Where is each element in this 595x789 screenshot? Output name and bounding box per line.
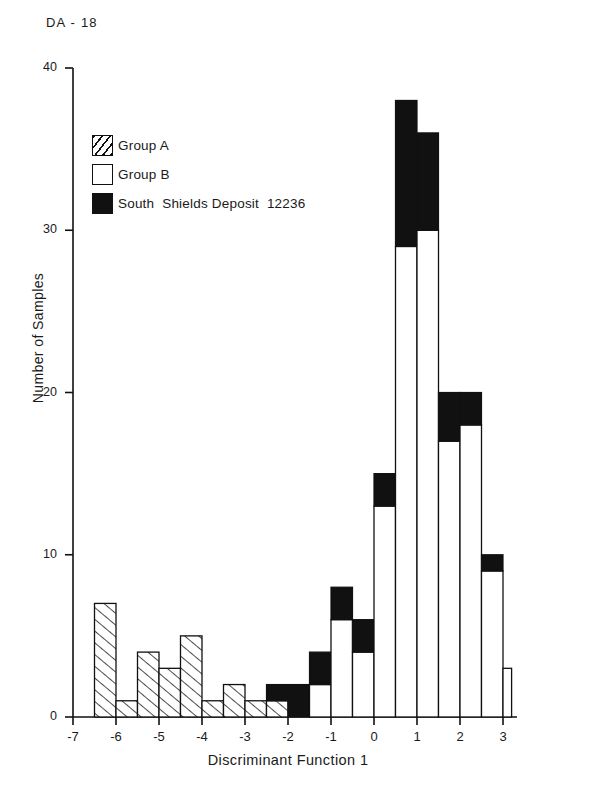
- bar-segment: [439, 441, 461, 717]
- bar-segment: [353, 620, 375, 652]
- x-tick-label: -5: [144, 729, 174, 744]
- x-tick-label: -2: [273, 729, 303, 744]
- bar-segment: [396, 100, 418, 246]
- bar-segment: [331, 587, 353, 619]
- chart-bars: [95, 100, 512, 717]
- bar-segment: [374, 474, 396, 506]
- x-tick-label: -6: [101, 729, 131, 744]
- bar-segment: [310, 685, 332, 717]
- bar-segment: [310, 652, 332, 684]
- x-tick-label: -7: [58, 729, 88, 744]
- bar-segment: [503, 668, 512, 717]
- bar-segment: [288, 685, 310, 717]
- y-tick-label: 30: [23, 222, 57, 236]
- bar-segment: [482, 571, 504, 717]
- bar-segment: [482, 555, 504, 571]
- bar-segment: [417, 133, 439, 230]
- bar-segment: [417, 230, 439, 717]
- bar-segment: [267, 685, 289, 701]
- y-tick-label: 0: [23, 709, 57, 723]
- bar-segment: [202, 701, 224, 717]
- x-tick-label: 3: [488, 729, 518, 744]
- x-tick-label: 2: [445, 729, 475, 744]
- bar-segment: [460, 393, 482, 425]
- bar-segment: [460, 425, 482, 717]
- bar-segment: [245, 701, 267, 717]
- bar-segment: [181, 636, 203, 717]
- figure-container: DA - 18 Number of Samples Discriminant F…: [0, 0, 595, 789]
- x-tick-label: 1: [402, 729, 432, 744]
- bar-segment: [331, 620, 353, 717]
- bar-segment: [138, 652, 160, 717]
- bar-segment: [116, 701, 138, 717]
- bar-segment: [374, 506, 396, 717]
- x-tick-label: 0: [359, 729, 389, 744]
- x-tick-label: -3: [230, 729, 260, 744]
- y-tick-label: 40: [23, 60, 57, 74]
- bar-segment: [396, 246, 418, 717]
- bar-segment: [95, 603, 117, 717]
- bar-segment: [439, 393, 461, 442]
- x-tick-label: -4: [187, 729, 217, 744]
- bar-segment: [353, 652, 375, 717]
- x-tick-label: -1: [316, 729, 346, 744]
- y-tick-label: 10: [23, 547, 57, 561]
- bar-segment: [267, 701, 289, 717]
- bar-segment: [224, 685, 246, 717]
- bar-segment: [159, 668, 181, 717]
- chart-plot-area: [0, 0, 595, 789]
- y-tick-label: 20: [23, 385, 57, 399]
